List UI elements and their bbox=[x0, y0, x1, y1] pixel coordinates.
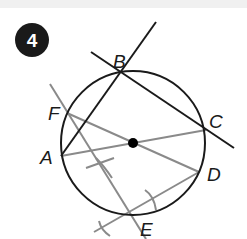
geometry-diagram: 4 B C D E F A bbox=[0, 0, 247, 239]
problem-number: 4 bbox=[27, 30, 38, 51]
label-C: C bbox=[209, 111, 223, 132]
label-A: A bbox=[39, 147, 53, 168]
label-F: F bbox=[48, 103, 61, 124]
black-construction-lines bbox=[61, 22, 234, 156]
line-through-B-A bbox=[61, 22, 156, 156]
label-D: D bbox=[207, 164, 221, 185]
label-E: E bbox=[140, 219, 153, 239]
label-B: B bbox=[113, 51, 126, 72]
problem-number-badge: 4 bbox=[15, 23, 49, 57]
center-point bbox=[128, 138, 138, 148]
